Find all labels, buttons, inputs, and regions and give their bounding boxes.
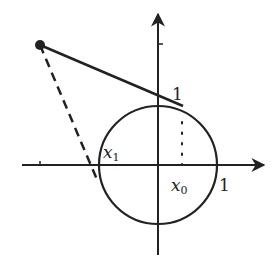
label-x1-base: x [103, 142, 113, 162]
diagram-canvas: 1 1 x1 x0 [0, 0, 275, 264]
label-x0-sub: 0 [181, 184, 188, 197]
label-y-one: 1 [172, 86, 183, 103]
label-x-one: 1 [219, 177, 230, 194]
label-x1: x1 [103, 144, 120, 163]
external-point [35, 40, 45, 50]
solid-line [40, 45, 183, 106]
label-x1-sub: 1 [113, 151, 120, 164]
label-x0-base: x [171, 175, 181, 195]
diagram-svg [0, 0, 275, 264]
label-x0: x0 [171, 177, 188, 196]
